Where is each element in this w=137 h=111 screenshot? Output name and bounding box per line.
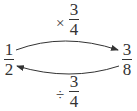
bottom-operand-numerator: 3 [70,74,79,90]
bottom-operand-denominator: 4 [70,94,79,110]
divide-arrow [17,66,119,74]
left-fraction: 1 2 [4,42,14,78]
top-operand-denominator: 4 [70,22,79,38]
multiply-arrow [16,41,118,50]
bottom-operand-fraction: 3 4 [69,74,79,110]
left-denominator: 2 [5,62,14,78]
left-numerator: 1 [5,42,14,58]
right-fraction: 3 8 [122,42,132,78]
multiply-operator: × [56,15,64,31]
right-numerator: 3 [123,42,132,58]
divide-operator: ÷ [56,87,64,103]
right-denominator: 8 [123,62,132,78]
top-operand-numerator: 3 [70,2,79,18]
top-operand-fraction: 3 4 [69,2,79,38]
